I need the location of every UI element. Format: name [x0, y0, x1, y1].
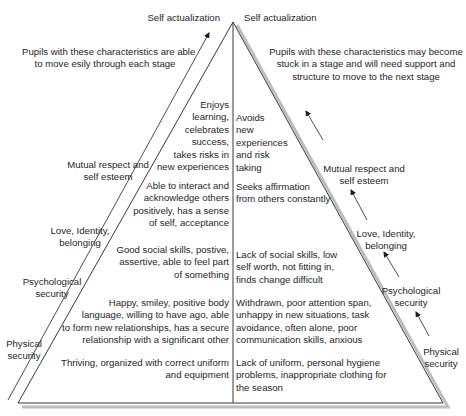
positive-trait-self-actualization: Enjoys learning, celebrates success, tak…	[157, 99, 229, 173]
right-side-note: Pupils with these characteristics may be…	[266, 46, 466, 83]
positive-trait-physical: Thriving, organized with correct uniform…	[61, 357, 229, 382]
pyramid-diagram: Self actualization Self actualization Pu…	[0, 0, 466, 416]
positive-trait-mutual-respect: Able to interact and acknowledge others …	[133, 180, 229, 230]
right-arrow-to-mutual-respect	[351, 190, 367, 220]
left-side-note: Pupils with these characteristics are ab…	[22, 46, 188, 71]
apex-label-left: Self actualization	[147, 12, 220, 24]
right-stage-mutual-respect: Mutual respect and self esteem	[316, 163, 412, 188]
positive-trait-love-identity: Good social skills, postive, assertive, …	[116, 244, 229, 281]
positive-trait-psychological: Happy, smiley, positive body language, w…	[62, 297, 229, 347]
negative-trait-self-actualization: Avoids new experiences and risk taking	[236, 112, 288, 174]
negative-trait-love-identity: Lack of social skills, low self worth, n…	[236, 249, 337, 286]
negative-trait-physical: Lack of uniform, personal hygiene proble…	[236, 357, 386, 394]
right-stage-love-identity: Love, Identity, belonging	[354, 228, 418, 253]
negative-trait-psychological: Withdrawn, poor attention span, unhappy …	[236, 297, 371, 347]
left-stage-physical: Physical security	[2, 338, 46, 363]
right-arrow-to-love	[384, 252, 399, 277]
right-stage-psychological: Psychological security	[378, 285, 444, 310]
right-arrow-to-psychological	[416, 312, 429, 336]
negative-trait-mutual-respect: Seeks affirmation from others constantly	[236, 181, 330, 206]
left-stage-love-identity: Love, Identity, belonging	[48, 225, 112, 250]
right-arrow-to-self-actualization	[306, 111, 323, 140]
apex-label-right: Self actualization	[244, 12, 317, 24]
right-stage-physical: Physical security	[418, 346, 464, 371]
